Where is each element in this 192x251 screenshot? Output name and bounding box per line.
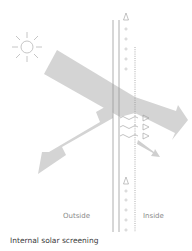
sun-icon xyxy=(12,32,42,62)
inside-label: Inside xyxy=(143,212,164,220)
airflow-circles xyxy=(125,28,127,231)
reflected-radiation-arrow xyxy=(38,103,113,174)
absorbed-reradiated-arrow xyxy=(137,140,160,157)
longwave-squiggles xyxy=(120,115,149,139)
band-through-glass xyxy=(120,88,135,117)
outside-label: Outside xyxy=(63,212,90,220)
diagram-caption: Internal solar screening xyxy=(10,236,98,245)
